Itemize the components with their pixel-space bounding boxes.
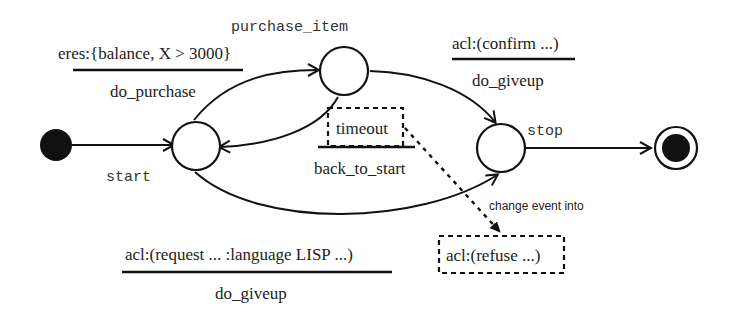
edge-start-to-purchase xyxy=(194,70,318,120)
event-eres-balance: eres:{balance, X > 3000} xyxy=(58,44,231,63)
state-purchase-item xyxy=(320,47,368,95)
state-stop xyxy=(477,124,525,172)
edge-purchase-to-start xyxy=(220,97,338,147)
label-purchase-item: purchase_item xyxy=(231,19,348,36)
event-acl-confirm: acl:(confirm ...) xyxy=(452,34,559,53)
state-diagram: purchase_item start stop eres:{balance, … xyxy=(0,0,737,320)
event-timeout: timeout xyxy=(336,119,388,138)
event-acl-refuse: acl:(refuse ...) xyxy=(446,246,540,265)
final-state-core xyxy=(662,134,690,162)
event-acl-request: acl:(request ... :language LISP ...) xyxy=(125,245,353,264)
state-start xyxy=(172,122,220,170)
action-back-to-start: back_to_start xyxy=(314,159,406,178)
initial-state xyxy=(40,129,72,161)
action-do-giveup: do_giveup xyxy=(472,71,544,90)
label-start: start xyxy=(106,169,151,186)
action-do-giveup-2: do_giveup xyxy=(215,284,287,303)
label-stop: stop xyxy=(527,123,563,140)
action-do-purchase: do_purchase xyxy=(110,82,196,101)
edge-start-to-stop xyxy=(195,172,497,214)
change-event-label: change event into xyxy=(489,199,584,213)
